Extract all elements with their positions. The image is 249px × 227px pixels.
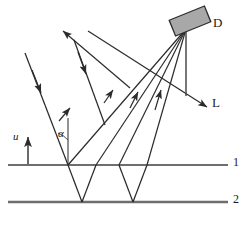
angle-alpha-label: α [58,128,64,139]
incident-ray-a-arrowhead [32,70,41,93]
light-direction-label: L [212,96,220,109]
internal-ray-up-2 [133,165,147,202]
emergent-ray-3-arrowhead [130,92,138,108]
incident-ray-a [25,53,68,165]
internal-ray-down-2 [119,165,133,202]
emergent-ray-2-to-detector [96,29,186,165]
ray-diagram-svg [0,0,249,227]
incident-direction-arrow-L [88,31,207,107]
detector-body [169,6,211,36]
emergent-ray-2-arrowhead [104,90,113,103]
emergent-ray-4-arrowhead [155,90,161,110]
escaping-ray-upper-left [63,31,130,88]
plane-2-label: 2 [233,193,239,205]
velocity-label: u [13,131,19,142]
internal-ray-up-1 [82,165,96,202]
figure-canvas: D L 1 2 u α [0,0,249,227]
internal-ray-down-1 [68,165,82,202]
emergent-ray-1-to-detector [68,29,186,165]
detector-label: D [213,16,222,29]
plane-1-label: 1 [233,156,239,168]
incident-ray-b-arrowhead [78,52,86,74]
